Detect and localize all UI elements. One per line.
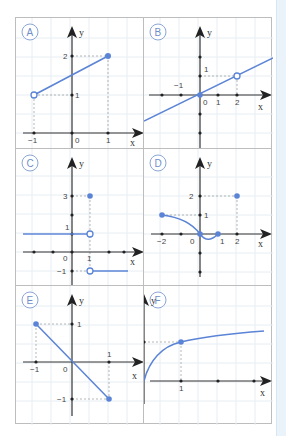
badge-e-label: E — [27, 295, 34, 306]
graph-e: E y x −1 0 1 1 −1 — [16, 286, 145, 425]
graph-panel-e: E y x −1 0 1 1 −1 — [15, 285, 144, 424]
badge-d-label: D — [155, 158, 162, 169]
graph-c: C y x 3 1 0 1 −1 — [16, 149, 145, 287]
svg-text:2: 2 — [235, 98, 240, 107]
svg-text:y: y — [207, 158, 212, 169]
svg-text:y: y — [151, 295, 156, 306]
graph-f: F y x 0 1 1 — [144, 286, 273, 425]
svg-text:−2: −2 — [157, 237, 167, 246]
svg-text:y: y — [79, 295, 84, 306]
svg-text:1: 1 — [179, 384, 184, 393]
svg-text:−1: −1 — [28, 136, 38, 145]
open-point — [31, 92, 37, 98]
svg-text:0: 0 — [63, 254, 68, 263]
svg-text:0: 0 — [190, 237, 195, 246]
svg-text:1: 1 — [204, 211, 209, 220]
graph-d: D y x −2 0 1 2 2 1 — [144, 149, 273, 287]
svg-text:1: 1 — [77, 320, 82, 329]
svg-text:x: x — [130, 256, 135, 267]
svg-text:x: x — [260, 387, 265, 398]
svg-text:−1: −1 — [57, 395, 67, 404]
svg-text:1: 1 — [65, 223, 70, 232]
badge-c-label: C — [27, 158, 34, 169]
svg-text:y: y — [207, 27, 212, 38]
graph-panel-b: B y x −1 0 1 2 1 — [143, 17, 272, 149]
svg-text:1: 1 — [204, 65, 209, 74]
svg-text:0: 0 — [203, 98, 208, 107]
graph-panel-f: F y x 0 1 1 — [143, 285, 272, 424]
svg-text:0: 0 — [63, 365, 68, 374]
svg-text:1: 1 — [220, 237, 225, 246]
closed-point — [105, 53, 111, 59]
badge-a-label: A — [27, 27, 34, 38]
svg-text:1: 1 — [216, 98, 221, 107]
graph-panel-a: A y x −1 0 1 1 2 — [15, 17, 144, 149]
svg-text:y: y — [79, 27, 84, 38]
graph-panel-d: D y x −2 0 1 2 2 1 — [143, 148, 272, 286]
svg-text:2: 2 — [63, 52, 68, 61]
svg-text:1: 1 — [75, 91, 80, 100]
svg-text:2: 2 — [189, 192, 194, 201]
svg-text:2: 2 — [235, 237, 240, 246]
svg-text:1: 1 — [107, 350, 112, 359]
svg-text:−1: −1 — [30, 365, 40, 374]
graph-panel-c: C y x 3 1 0 1 −1 — [15, 148, 144, 286]
graph-b: B y x −1 0 1 2 1 — [144, 18, 273, 150]
svg-text:x: x — [132, 370, 137, 381]
svg-text:−1: −1 — [57, 267, 67, 276]
graph-a: A y x −1 0 1 1 2 — [16, 18, 145, 150]
badge-b-label: B — [155, 27, 162, 38]
svg-text:0: 0 — [75, 136, 80, 145]
svg-text:x: x — [258, 101, 263, 112]
svg-text:1: 1 — [106, 136, 111, 145]
svg-text:x: x — [258, 238, 263, 249]
svg-text:3: 3 — [63, 192, 68, 201]
svg-text:y: y — [79, 158, 84, 169]
svg-text:−1: −1 — [174, 81, 184, 90]
svg-text:x: x — [130, 137, 135, 148]
page-margin-strip — [276, 0, 286, 436]
svg-text:1: 1 — [87, 254, 92, 263]
